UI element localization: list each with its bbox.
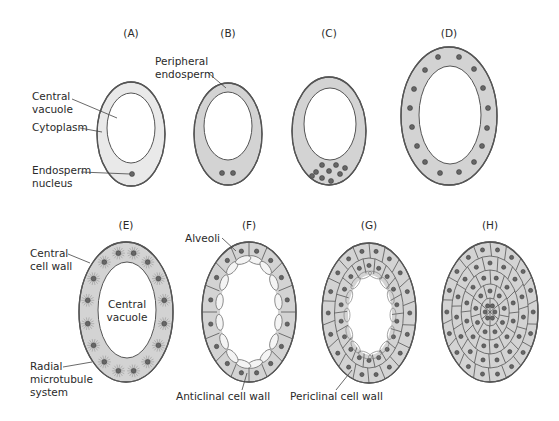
cell-stages xyxy=(79,47,538,383)
nucleus xyxy=(474,265,478,269)
nucleus xyxy=(405,332,409,336)
nucleus xyxy=(347,257,351,261)
nucleus xyxy=(475,320,479,324)
nucleus xyxy=(482,276,486,280)
nucleus xyxy=(285,298,289,302)
nucleus xyxy=(209,298,213,302)
nucleus xyxy=(490,304,494,308)
nucleus xyxy=(466,255,470,259)
nucleus xyxy=(360,249,364,253)
annotation-text: Central xyxy=(108,298,146,310)
nucleus xyxy=(102,260,107,265)
nucleus xyxy=(85,321,90,326)
nucleus xyxy=(472,160,477,165)
nucleus xyxy=(423,160,428,165)
nucleus xyxy=(209,322,213,326)
annotation-text: Central xyxy=(32,90,70,102)
nucleus xyxy=(490,316,494,320)
panel-label: (F) xyxy=(242,219,256,231)
endosperm-development-diagram: (A)(B)(C)(D)(E)(F)(G)(H) CentralvacuoleC… xyxy=(0,0,559,421)
nucleus xyxy=(495,248,499,252)
nucleus xyxy=(455,350,459,354)
nucleus xyxy=(254,371,258,375)
nucleus xyxy=(377,266,381,270)
nucleus xyxy=(91,276,96,281)
nucleus xyxy=(374,372,378,376)
stage-b xyxy=(194,83,262,185)
nucleus xyxy=(468,350,472,354)
nucleus xyxy=(438,171,443,176)
nucleus xyxy=(338,172,343,177)
nucleus xyxy=(398,271,402,275)
nucleus xyxy=(314,170,319,175)
annotation-text: Cytoplasm xyxy=(32,121,88,133)
nucleus xyxy=(517,334,521,338)
nucleus xyxy=(502,306,506,310)
nucleus xyxy=(505,285,509,289)
nucleus xyxy=(339,303,343,307)
nucleus xyxy=(225,258,229,262)
nucleus xyxy=(472,67,477,72)
annotation-text: microtubule xyxy=(30,373,93,385)
annotation-text: Endosperm xyxy=(32,164,91,176)
nucleus xyxy=(483,330,487,334)
annotation-central-vacuole: Centralvacuole xyxy=(107,298,148,323)
stage-d xyxy=(401,47,497,185)
nucleus xyxy=(367,263,371,267)
nucleus xyxy=(455,269,459,273)
nucleus xyxy=(466,364,470,368)
annotation-radial-microtubule-system: Radialmicrotubulesystem xyxy=(30,360,93,398)
nucleus xyxy=(486,106,491,111)
nucleus xyxy=(495,358,499,362)
nucleus xyxy=(412,87,417,92)
nucleus xyxy=(395,303,399,307)
nucleus xyxy=(156,343,161,348)
nucleus xyxy=(479,294,483,298)
nucleus xyxy=(343,166,348,171)
nucleus xyxy=(456,295,460,299)
nucleus xyxy=(329,332,333,336)
nucleus xyxy=(225,361,229,365)
nucleus xyxy=(445,310,449,314)
nucleus xyxy=(116,368,121,373)
nucleus xyxy=(459,334,463,338)
nucleus xyxy=(162,298,167,303)
nucleus xyxy=(387,365,391,369)
nucleus xyxy=(116,251,121,256)
nucleus xyxy=(465,301,469,305)
nucleus xyxy=(342,287,346,291)
nucleus xyxy=(495,372,499,376)
nucleus xyxy=(320,176,325,181)
nucleus xyxy=(521,269,525,273)
leader-line xyxy=(63,362,92,367)
nucleus xyxy=(336,351,340,355)
central-vacuole xyxy=(419,66,481,164)
stage-c xyxy=(292,77,366,185)
nucleus xyxy=(405,290,409,294)
nucleus xyxy=(387,257,391,261)
central-vacuole xyxy=(204,92,252,160)
annotation-cytoplasm: Cytoplasm xyxy=(32,121,102,133)
panel-label: (B) xyxy=(220,27,235,39)
nucleus xyxy=(513,277,517,281)
nucleus xyxy=(481,86,486,91)
nucleus xyxy=(497,294,501,298)
nucleus xyxy=(131,368,136,373)
panel-label: (E) xyxy=(119,219,134,231)
nucleus xyxy=(329,290,333,294)
annotation-text: vacuole xyxy=(107,311,148,323)
nucleus xyxy=(510,255,514,259)
nucleus xyxy=(463,277,467,281)
annotation-peripheral-endosperm: Peripheralendosperm xyxy=(155,55,226,88)
annotation-text: nucleus xyxy=(32,177,73,189)
nucleus xyxy=(505,335,509,339)
nucleus xyxy=(521,350,525,354)
nucleus xyxy=(145,359,150,364)
nucleus xyxy=(494,276,498,280)
nucleus xyxy=(349,275,353,279)
nucleus xyxy=(415,144,420,149)
nucleus xyxy=(531,310,535,314)
central-vacuole xyxy=(348,275,392,355)
nucleus xyxy=(326,311,330,315)
nucleus xyxy=(385,275,389,279)
